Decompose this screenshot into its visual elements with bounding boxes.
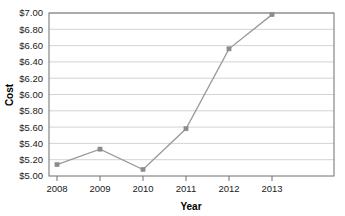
x-axis-ticks (57, 176, 272, 181)
x-axis-tick-label: 2009 (89, 183, 110, 194)
y-axis-tick-label: $7.00 (19, 7, 43, 18)
x-axis-title: Year (180, 201, 201, 212)
x-axis-tick-labels: 200820092010201120122013 (46, 183, 282, 194)
y-axis-tick-label: $6.00 (19, 89, 43, 100)
data-point-marker (227, 47, 231, 51)
data-point-marker (270, 13, 274, 17)
y-axis-tick-label: $6.20 (19, 73, 43, 84)
data-point-markers (55, 13, 274, 172)
data-point-marker (55, 162, 59, 166)
y-axis-tick-label: $6.60 (19, 40, 43, 51)
y-axis-tick-labels: $5.00$5.20$5.40$5.60$5.80$6.00$6.20$6.40… (19, 7, 43, 181)
x-axis-tick-label: 2011 (176, 183, 196, 194)
x-axis-tick-label: 2012 (218, 183, 239, 194)
y-axis-tick-label: $5.00 (19, 170, 43, 181)
data-point-marker (98, 147, 102, 151)
gridlines (49, 13, 334, 160)
x-axis-tick-label: 2013 (261, 183, 282, 194)
y-axis-tick-label: $5.40 (19, 138, 43, 149)
x-axis-tick-label: 2010 (132, 183, 153, 194)
data-series-line (57, 15, 272, 170)
line-chart: $5.00$5.20$5.40$5.60$5.80$6.00$6.20$6.40… (0, 0, 345, 216)
data-point-marker (184, 127, 188, 131)
y-axis-tick-label: $5.80 (19, 105, 43, 116)
chart-canvas: $5.00$5.20$5.40$5.60$5.80$6.00$6.20$6.40… (0, 0, 345, 216)
y-axis-title: Cost (4, 83, 15, 106)
y-axis-tick-label: $6.80 (19, 24, 43, 35)
y-axis-tick-label: $6.40 (19, 56, 43, 67)
y-axis-tick-label: $5.20 (19, 154, 43, 165)
y-axis-tick-label: $5.60 (19, 122, 43, 133)
data-point-marker (141, 167, 145, 171)
x-axis-tick-label: 2008 (46, 183, 67, 194)
series-line-cost (57, 15, 272, 170)
